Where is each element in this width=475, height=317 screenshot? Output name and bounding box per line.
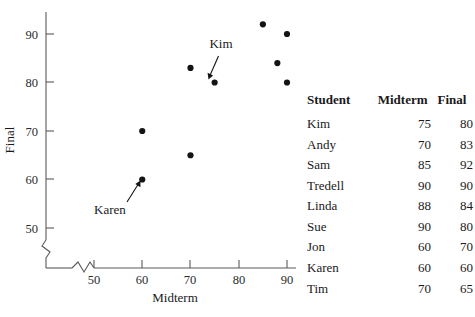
- table-cell-midterm: 70: [374, 135, 431, 156]
- y-tick-label-80: 80: [26, 76, 39, 90]
- column-header-final: Final: [431, 92, 473, 114]
- y-tick-label-70: 70: [26, 125, 39, 139]
- table-row: Sue9080: [307, 217, 473, 238]
- karen-annotation-label: Karen: [94, 202, 126, 217]
- x-axis-ticks: [94, 260, 287, 268]
- table-row: Kim7580: [307, 114, 473, 135]
- table-row: Karen6060: [307, 258, 473, 279]
- table-cell-final: 92: [431, 155, 473, 176]
- data-point: [187, 152, 193, 158]
- table-cell-midterm: 60: [374, 237, 431, 258]
- table-cell-student: Sam: [307, 155, 374, 176]
- table-cell-student: Sue: [307, 217, 374, 238]
- table-cell-student: Karen: [307, 258, 374, 279]
- data-point: [212, 79, 218, 85]
- table-cell-student: Linda: [307, 196, 374, 217]
- data-point: [274, 60, 280, 66]
- data-point: [187, 65, 193, 71]
- table-cell-final: 80: [431, 217, 473, 238]
- table-cell-student: Kim: [307, 114, 374, 135]
- karen-leader-line: [127, 183, 139, 202]
- table-cell-midterm: 90: [374, 176, 431, 197]
- table-cell-student: Jon: [307, 237, 374, 258]
- y-axis-title: Final: [2, 126, 17, 153]
- table-cell-student: Tim: [307, 279, 374, 300]
- karen-arrow-head: [135, 181, 140, 188]
- table-cell-student: Tredell: [307, 176, 374, 197]
- table-cell-final: 83: [431, 135, 473, 156]
- table-cell-final: 60: [431, 258, 473, 279]
- table-row: Tim7065: [307, 279, 473, 300]
- table-cell-midterm: 90: [374, 217, 431, 238]
- student-scores-table-container: Student Midterm Final Kim7580Andy7083Sam…: [307, 92, 473, 299]
- table-cell-final: 70: [431, 237, 473, 258]
- table-cell-final: 90: [431, 176, 473, 197]
- data-point: [260, 21, 266, 27]
- table-cell-midterm: 75: [374, 114, 431, 135]
- column-header-student: Student: [307, 92, 374, 114]
- table-cell-final: 65: [431, 279, 473, 300]
- data-point: [284, 79, 290, 85]
- scatter-plot-figure: 90 80 70 60 50 50 60 70 80 90 Midterm Fi…: [0, 0, 310, 317]
- annotation-karen: Karen: [94, 181, 140, 218]
- table-row: Linda8884: [307, 196, 473, 217]
- table-header-row: Student Midterm Final: [307, 92, 473, 114]
- table-row: Sam8592: [307, 155, 473, 176]
- table-cell-midterm: 85: [374, 155, 431, 176]
- table-row: Andy7083: [307, 135, 473, 156]
- table-cell-midterm: 60: [374, 258, 431, 279]
- x-tick-label-60: 60: [136, 273, 149, 287]
- table-cell-midterm: 88: [374, 196, 431, 217]
- x-tick-label-90: 90: [281, 273, 294, 287]
- y-tick-label-60: 60: [26, 173, 39, 187]
- table-cell-final: 84: [431, 196, 473, 217]
- y-axis-break-mark: [42, 240, 50, 268]
- x-axis-break-mark: [72, 262, 94, 272]
- y-axis-ticks: [46, 34, 54, 228]
- table-cell-student: Andy: [307, 135, 374, 156]
- y-tick-label-90: 90: [26, 28, 39, 42]
- table-body: Kim7580Andy7083Sam8592Tredell9090Linda88…: [307, 114, 473, 299]
- x-tick-label-80: 80: [233, 273, 246, 287]
- x-tick-label-50: 50: [88, 273, 101, 287]
- column-header-midterm: Midterm: [374, 92, 431, 114]
- data-point: [284, 31, 290, 37]
- table-cell-final: 80: [431, 114, 473, 135]
- table-row: Tredell9090: [307, 176, 473, 197]
- kim-annotation-label: Kim: [209, 36, 232, 51]
- annotation-kim: Kim: [208, 36, 233, 80]
- plot-canvas: 90 80 70 60 50 50 60 70 80 90 Midterm Fi…: [0, 0, 310, 317]
- y-tick-label-50: 50: [26, 222, 39, 236]
- x-tick-label-70: 70: [184, 273, 197, 287]
- kim-leader-line: [210, 56, 219, 77]
- table-cell-midterm: 70: [374, 279, 431, 300]
- data-point: [139, 128, 145, 134]
- student-scores-table: Student Midterm Final Kim7580Andy7083Sam…: [307, 92, 473, 299]
- table-row: Jon6070: [307, 237, 473, 258]
- x-axis-title: Midterm: [152, 290, 198, 305]
